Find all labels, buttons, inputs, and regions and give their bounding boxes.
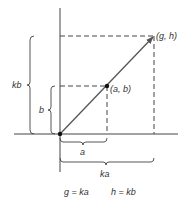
- vector-scaling-diagram: (a, b) (g, h) kb b a ka g = ka h = kb: [0, 0, 187, 206]
- ka-brace: [60, 158, 154, 165]
- a-brace-label: a: [80, 147, 85, 157]
- kb-brace-label: kb: [12, 80, 22, 90]
- equation-g: g = ka: [64, 187, 89, 197]
- a-brace: [60, 138, 107, 145]
- point-gh-label: (g, h): [156, 31, 177, 41]
- point-ab: [105, 84, 109, 88]
- origin-point: [58, 132, 62, 136]
- ka-brace-label: ka: [100, 169, 110, 179]
- b-brace: [48, 86, 55, 134]
- b-brace-label: b: [39, 105, 44, 115]
- kb-brace: [27, 36, 34, 134]
- equation-h: h = kb: [111, 187, 136, 197]
- point-ab-label: (a, b): [110, 84, 131, 94]
